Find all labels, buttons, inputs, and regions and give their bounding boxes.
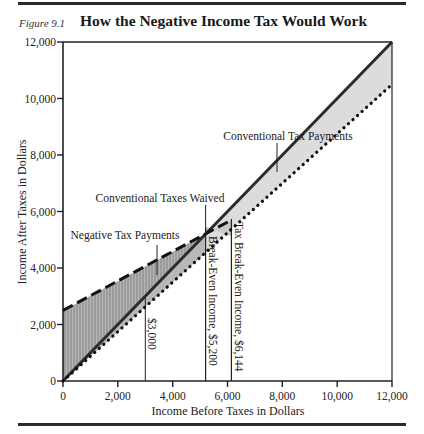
x-tick-label: 2,000 xyxy=(105,390,131,403)
x-tick-label: 8,000 xyxy=(269,390,295,403)
y-tick-label: 2,000 xyxy=(30,319,56,332)
y-tick-label: 10,000 xyxy=(24,93,56,106)
y-tick-label: 6,000 xyxy=(30,206,56,219)
x-tick-label: 4,000 xyxy=(160,390,186,403)
x-ticks xyxy=(63,381,392,387)
bottom-rule xyxy=(18,423,406,426)
annotation-conventional-taxes-waived: Conventional Taxes Waived xyxy=(96,192,225,204)
marker-3000-label: $3,000 xyxy=(145,318,158,350)
marker-6144-label: Tax Break-Even Income, $6,144 xyxy=(232,222,245,372)
x-tick-label: 0 xyxy=(60,390,66,402)
y-tick-label: 12,000 xyxy=(24,36,56,49)
x-axis-label: Income Before Taxes in Dollars xyxy=(152,404,305,418)
annotation-conventional-tax-payments: Conventional Tax Payments xyxy=(223,130,353,143)
y-axis-label: Income After Taxes in Dollars xyxy=(15,139,29,284)
y-tick-label: 4,000 xyxy=(30,262,56,275)
chart: 0 2,000 4,000 6,000 8,000 10,000 12,000 … xyxy=(0,0,424,434)
y-tick-label: 0 xyxy=(50,375,56,387)
marker-5200-label: Break-Even Income, $5,200 xyxy=(206,236,219,366)
x-tick-label: 10,000 xyxy=(321,390,353,403)
annotation-negative-tax-payments: Negative Tax Payments xyxy=(71,229,180,242)
y-ticks xyxy=(57,42,63,381)
x-tick-label: 6,000 xyxy=(215,390,241,403)
x-tick-label: 12,000 xyxy=(376,390,408,403)
no-tax-line xyxy=(63,42,392,381)
y-tick-label: 8,000 xyxy=(30,149,56,162)
